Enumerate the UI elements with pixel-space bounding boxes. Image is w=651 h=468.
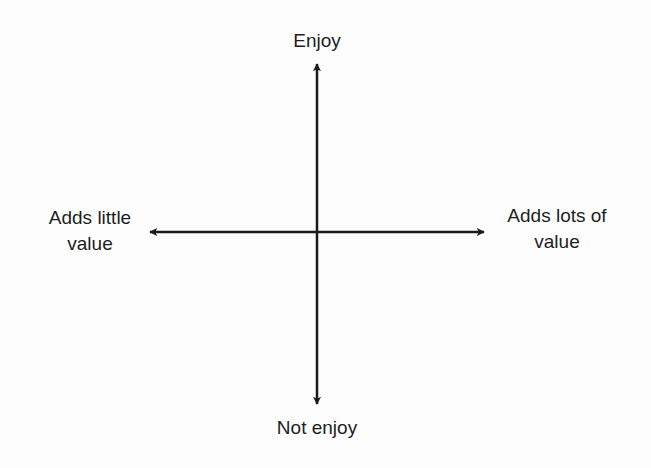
top-label: Enjoy [257,28,377,54]
left-label-line2: value [20,231,160,257]
left-label: Adds little value [20,205,160,257]
quadrant-diagram: Enjoy Not enjoy Adds little value Adds l… [0,0,651,468]
right-label: Adds lots of value [482,203,632,255]
right-label-line2: value [482,229,632,255]
bottom-label: Not enjoy [237,415,397,441]
right-label-line1: Adds lots of [482,203,632,229]
left-label-line1: Adds little [20,205,160,231]
